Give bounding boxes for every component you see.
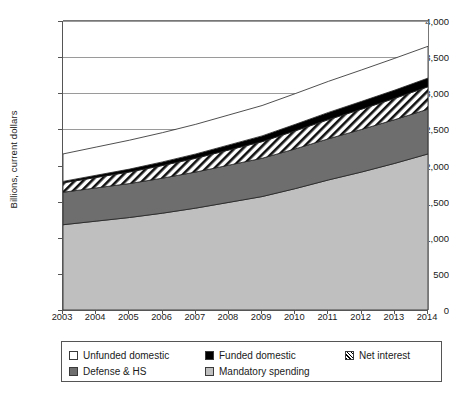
y-axis-title: Billions, current dollars — [2, 0, 24, 318]
y-axis-title-text: Billions, current dollars — [8, 110, 19, 208]
legend-label: Defense & HS — [83, 366, 146, 377]
legend-label: Unfunded domestic — [83, 350, 169, 361]
area-series-group — [63, 21, 428, 310]
legend-swatch-icon — [69, 351, 78, 360]
legend-item-funded-domestic[interactable]: Funded domestic — [205, 350, 345, 361]
legend-swatch-icon — [205, 351, 214, 360]
legend-item-defense-hs[interactable]: Defense & HS — [69, 366, 205, 377]
chart-legend: Unfunded domestic Funded domestic Net in… — [61, 341, 442, 382]
legend-swatch-icon — [205, 367, 214, 376]
legend-swatch-icon — [69, 367, 78, 376]
legend-label: Net interest — [359, 350, 410, 361]
legend-row-2: Defense & HS Mandatory spending — [69, 363, 441, 379]
legend-swatch-icon — [345, 351, 354, 360]
legend-item-unfunded-domestic[interactable]: Unfunded domestic — [69, 350, 205, 361]
legend-item-mandatory-spending[interactable]: Mandatory spending — [205, 366, 345, 377]
stacked-area-chart: Billions, current dollars 05001,0001,500… — [0, 0, 449, 394]
plot-frame-right — [428, 21, 429, 310]
plot-area — [62, 21, 428, 311]
legend-label: Funded domestic — [219, 350, 296, 361]
legend-item-net-interest[interactable]: Net interest — [345, 350, 410, 361]
legend-label: Mandatory spending — [219, 366, 310, 377]
legend-row-1: Unfunded domestic Funded domestic Net in… — [69, 347, 441, 363]
